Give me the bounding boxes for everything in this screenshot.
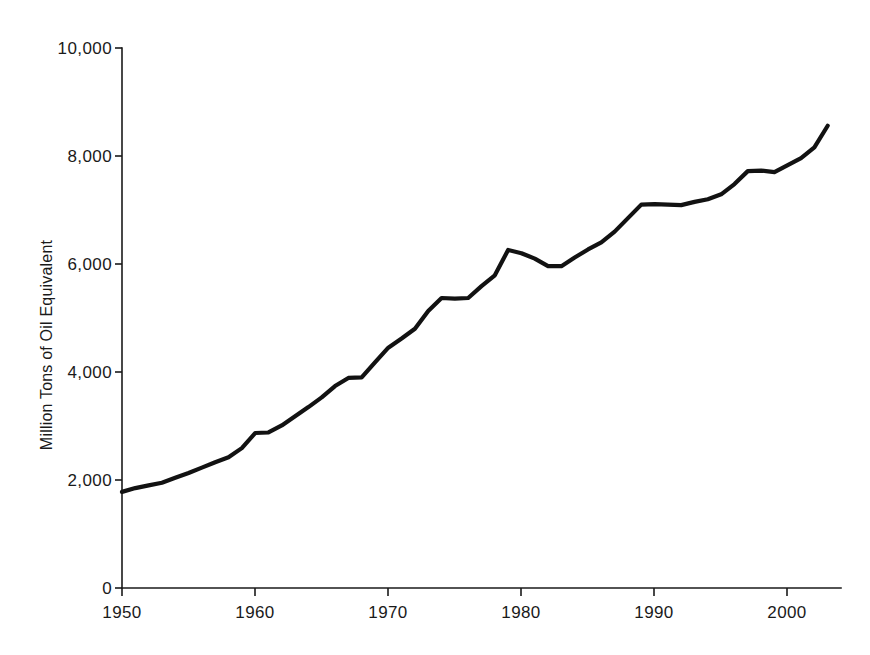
x-tick-label-1980: 1980 [501,603,540,622]
x-tick-label-1970: 1970 [368,603,407,622]
y-axis-title: Million Tons of Oil Equivalent [38,240,55,451]
x-tick-label-1950: 1950 [102,603,141,622]
x-tick-label-2000: 2000 [767,603,806,622]
chart-figure: Million Tons of Oil Equivalent 10,000 8,… [0,0,870,655]
line-chart: Million Tons of Oil Equivalent 10,000 8,… [0,0,870,655]
x-tick-label-1960: 1960 [235,603,274,622]
y-tick-label-4000: 4,000 [67,363,112,382]
y-tick-label-0: 0 [102,579,112,598]
y-tick-label-2000: 2,000 [67,471,112,490]
y-tick-label-6000: 6,000 [67,255,112,274]
x-tick-label-1990: 1990 [634,603,673,622]
y-tick-label-8000: 8,000 [67,147,112,166]
y-tick-label-10000: 10,000 [58,39,112,58]
data-series-line [122,126,828,492]
